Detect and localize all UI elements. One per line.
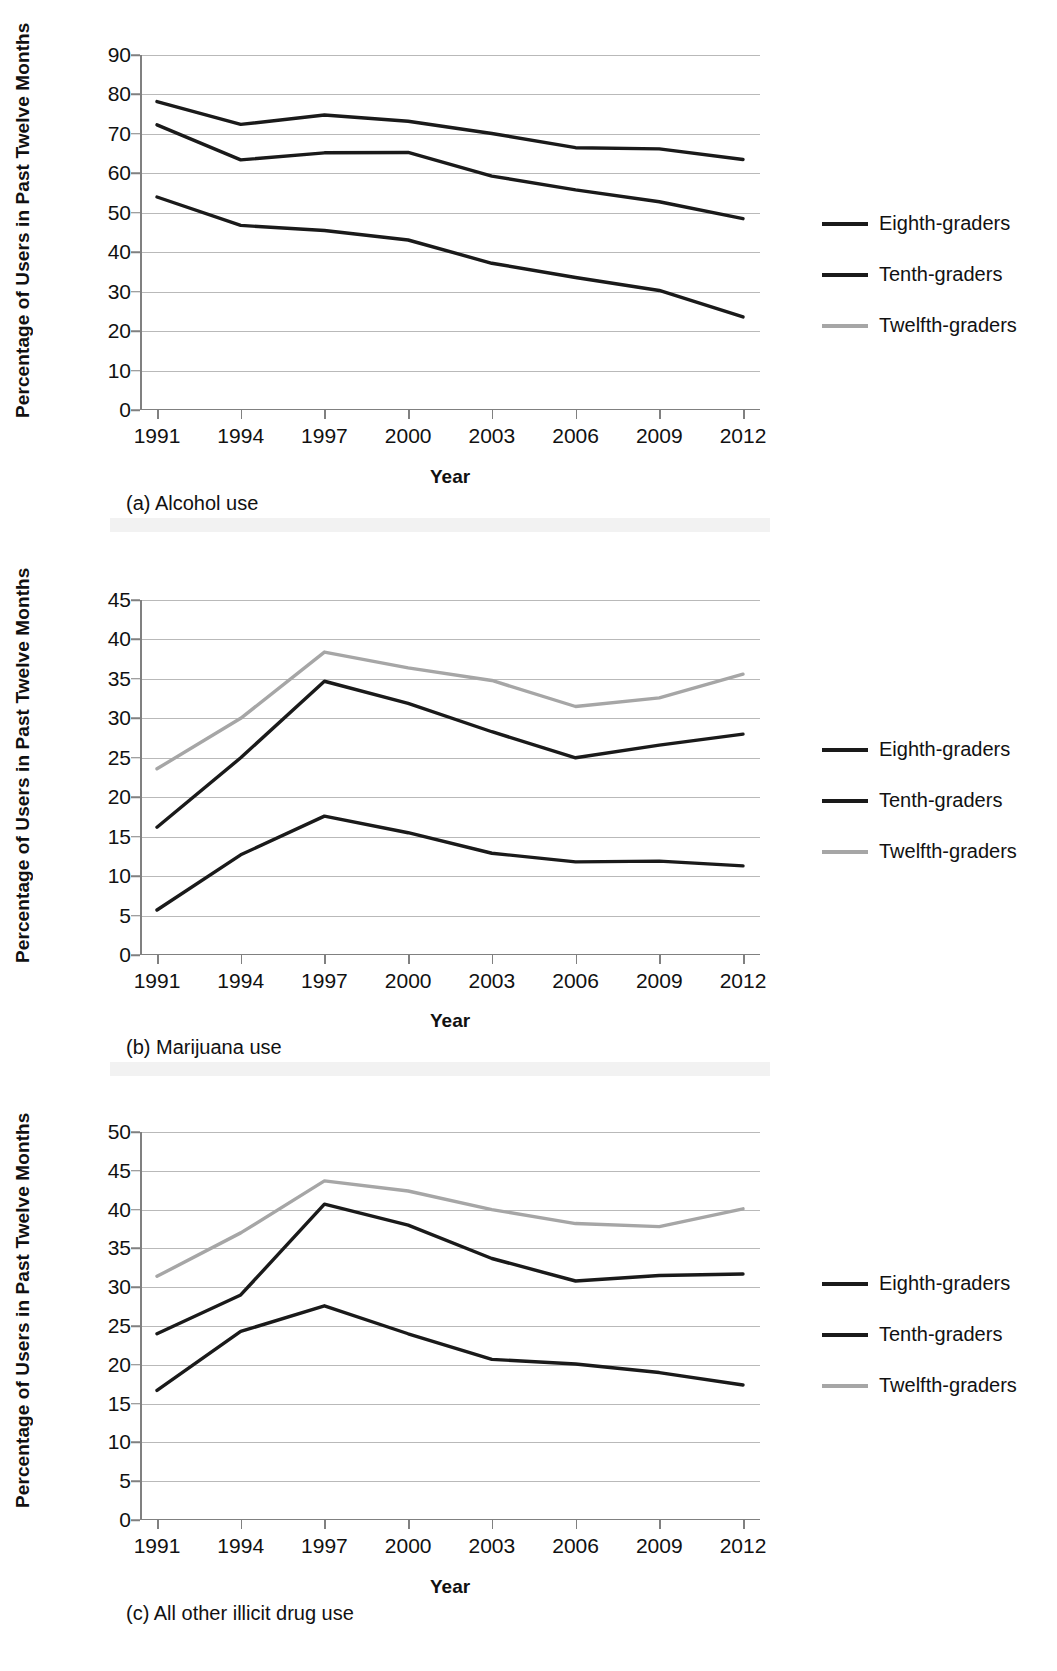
legend-item-label: Eighth-graders bbox=[879, 738, 1010, 761]
series-lines bbox=[140, 1132, 760, 1520]
legend-item[interactable]: Twelfth-graders bbox=[822, 840, 1017, 863]
x-axis-tick-label: 2012 bbox=[720, 424, 767, 448]
x-axis-tick-mark bbox=[576, 1520, 578, 1529]
y-axis-tick-mark bbox=[131, 409, 140, 411]
legend-item[interactable]: Tenth-graders bbox=[822, 1323, 1017, 1346]
legend-item[interactable]: Tenth-graders bbox=[822, 263, 1017, 286]
y-axis-tick-mark bbox=[131, 370, 140, 372]
series-line-tenth-graders bbox=[157, 681, 743, 827]
x-axis-tick-mark bbox=[492, 1520, 494, 1529]
x-axis-tick-mark bbox=[324, 410, 326, 419]
y-axis-tick-mark bbox=[131, 54, 140, 56]
y-axis-tick-mark bbox=[131, 1442, 140, 1444]
x-axis-tick-label: 2006 bbox=[552, 1534, 599, 1558]
x-axis-tick-label: 1991 bbox=[134, 424, 181, 448]
series-line-twelfth-graders bbox=[157, 102, 743, 160]
y-axis-tick-mark bbox=[131, 291, 140, 293]
x-axis-tick-label: 2012 bbox=[720, 969, 767, 993]
legend-item-label: Eighth-graders bbox=[879, 1272, 1010, 1295]
x-axis-tick-label: 1997 bbox=[301, 424, 348, 448]
series-lines bbox=[140, 55, 760, 410]
panel-alcohol-use: Percentage of Users in Past Twelve Month… bbox=[0, 0, 1057, 520]
legend-item-label: Twelfth-graders bbox=[879, 840, 1017, 863]
y-axis-tick-mark bbox=[131, 639, 140, 641]
x-axis-tick-mark bbox=[576, 410, 578, 419]
legend-line-swatch bbox=[822, 1282, 868, 1286]
y-axis-tick-mark bbox=[131, 212, 140, 214]
series-line-twelfth-graders bbox=[157, 1181, 743, 1276]
legend-line-swatch bbox=[822, 273, 868, 277]
legend-item[interactable]: Tenth-graders bbox=[822, 789, 1017, 812]
plot-area-a: 0102030405060708090199119941997200020032… bbox=[140, 55, 760, 410]
x-axis-tick-mark bbox=[576, 955, 578, 964]
legend-item[interactable]: Twelfth-graders bbox=[822, 1374, 1017, 1397]
plot-area-b: 0510152025303540451991199419972000200320… bbox=[140, 600, 760, 955]
y-axis-tick-mark bbox=[131, 836, 140, 838]
x-axis-tick-label: 2000 bbox=[385, 1534, 432, 1558]
legend-b: Eighth-gradersTenth-gradersTwelfth-grade… bbox=[822, 738, 1017, 891]
x-axis-tick-mark bbox=[241, 955, 243, 964]
x-axis-tick-label: 1991 bbox=[134, 1534, 181, 1558]
legend-item-label: Twelfth-graders bbox=[879, 1374, 1017, 1397]
x-axis-tick-label: 1997 bbox=[301, 969, 348, 993]
x-axis-tick-label: 1994 bbox=[217, 1534, 264, 1558]
x-axis-tick-label: 2003 bbox=[468, 969, 515, 993]
y-axis-tick-mark bbox=[131, 954, 140, 956]
series-line-eighth-graders bbox=[157, 197, 743, 317]
y-axis-tick-mark bbox=[131, 875, 140, 877]
y-axis-tick-mark bbox=[131, 133, 140, 135]
series-line-tenth-graders bbox=[157, 1204, 743, 1334]
y-axis-title-c: Percentage of Users in Past Twelve Month… bbox=[12, 1100, 34, 1520]
x-axis-title-a: Year bbox=[430, 466, 470, 488]
y-axis-tick-mark bbox=[131, 915, 140, 917]
legend-item-label: Twelfth-graders bbox=[879, 314, 1017, 337]
x-axis-title-c: Year bbox=[430, 1576, 470, 1598]
x-axis-tick-mark bbox=[157, 955, 159, 964]
scan-artifact-band-1 bbox=[110, 518, 770, 532]
x-axis-tick-mark bbox=[492, 410, 494, 419]
x-axis-tick-label: 2009 bbox=[636, 424, 683, 448]
legend-item[interactable]: Twelfth-graders bbox=[822, 314, 1017, 337]
legend-item[interactable]: Eighth-graders bbox=[822, 212, 1017, 235]
legend-item[interactable]: Eighth-graders bbox=[822, 738, 1017, 761]
y-axis-tick-mark bbox=[131, 1480, 140, 1482]
x-axis-tick-mark bbox=[408, 1520, 410, 1529]
x-axis-tick-label: 2009 bbox=[636, 969, 683, 993]
x-axis-tick-label: 2003 bbox=[468, 424, 515, 448]
y-axis-tick-mark bbox=[131, 1519, 140, 1521]
y-axis-tick-mark bbox=[131, 796, 140, 798]
legend-item-label: Tenth-graders bbox=[879, 263, 1002, 286]
x-axis-tick-mark bbox=[743, 955, 745, 964]
y-axis-tick-mark bbox=[131, 718, 140, 720]
series-line-twelfth-graders bbox=[157, 652, 743, 769]
y-axis-tick-mark bbox=[131, 1403, 140, 1405]
x-axis-tick-mark bbox=[324, 955, 326, 964]
y-axis-tick-mark bbox=[131, 1131, 140, 1133]
series-line-eighth-graders bbox=[157, 816, 743, 910]
x-axis-tick-label: 2003 bbox=[468, 1534, 515, 1558]
x-axis-tick-mark bbox=[157, 1520, 159, 1529]
x-axis-tick-label: 2006 bbox=[552, 424, 599, 448]
scan-artifact-band-2 bbox=[110, 1062, 770, 1076]
x-axis-tick-mark bbox=[241, 1520, 243, 1529]
y-axis-tick-mark bbox=[131, 173, 140, 175]
legend-line-swatch bbox=[822, 748, 868, 752]
y-axis-tick-mark bbox=[131, 1286, 140, 1288]
x-axis-tick-label: 2012 bbox=[720, 1534, 767, 1558]
plot-area-c: 0510152025303540455019911994199720002003… bbox=[140, 1132, 760, 1520]
x-axis-tick-label: 2000 bbox=[385, 969, 432, 993]
series-line-eighth-graders bbox=[157, 1306, 743, 1391]
legend-line-swatch bbox=[822, 222, 868, 226]
y-axis-tick-mark bbox=[131, 1364, 140, 1366]
x-axis-tick-mark bbox=[408, 955, 410, 964]
x-axis-tick-label: 2009 bbox=[636, 1534, 683, 1558]
series-line-tenth-graders bbox=[157, 125, 743, 219]
legend-a: Eighth-gradersTenth-gradersTwelfth-grade… bbox=[822, 212, 1017, 365]
legend-item[interactable]: Eighth-graders bbox=[822, 1272, 1017, 1295]
x-axis-tick-label: 2006 bbox=[552, 969, 599, 993]
y-axis-tick-mark bbox=[131, 1248, 140, 1250]
legend-item-label: Eighth-graders bbox=[879, 212, 1010, 235]
y-axis-tick-mark bbox=[131, 1170, 140, 1172]
panel-caption-a: (a) Alcohol use bbox=[126, 492, 258, 515]
x-axis-tick-label: 1991 bbox=[134, 969, 181, 993]
